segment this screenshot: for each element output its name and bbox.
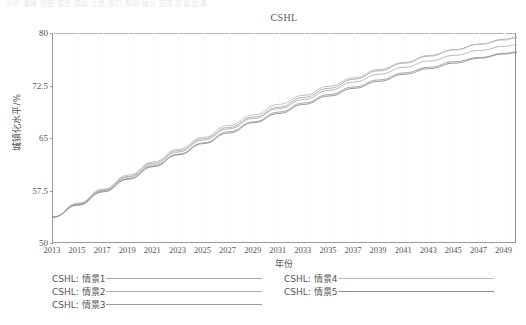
y-tick-label: 80 [39, 28, 48, 38]
x-tick-label: 2049 [495, 245, 512, 255]
x-tick-label: 2037 [344, 245, 361, 255]
x-tick-label: 2045 [445, 245, 462, 255]
series-line [53, 53, 517, 218]
x-tick-label: 2015 [69, 245, 86, 255]
legend-item[interactable]: CSHL: 情景3 [52, 298, 284, 311]
legend-item-label: CSHL: 情景2 [52, 285, 105, 298]
legend-item-label: CSHL: 情景1 [52, 272, 105, 285]
window-menu-strip: 文件 编辑 视图 模型 模拟 工具 窗口 帮助 输出 图表 变量 结果 [6, 0, 506, 9]
x-axis-title: 年份 [52, 257, 516, 270]
y-axis-title: 城镇化水平/% [10, 139, 23, 151]
x-tick-label: 2029 [244, 245, 261, 255]
series-lines [53, 33, 517, 243]
y-tick-mark [50, 243, 53, 244]
plot-area: 5057.56572.580 [52, 33, 516, 243]
x-tick-label: 2033 [294, 245, 311, 255]
chart-title: CSHL [52, 12, 516, 23]
x-tick-label: 2027 [219, 245, 236, 255]
x-tick-label: 2035 [319, 245, 336, 255]
x-tick-label: 2031 [269, 245, 286, 255]
x-tick-label: 2019 [119, 245, 136, 255]
legend-item-line-swatch [106, 304, 262, 305]
chart-legend: CSHL: 情景1CSHL: 情景2CSHL: 情景3 CSHL: 情景4CSH… [52, 272, 516, 318]
x-tick-label: 2021 [144, 245, 161, 255]
legend-item-label: CSHL: 情景3 [52, 298, 105, 311]
legend-item-label: CSHL: 情景5 [284, 285, 337, 298]
legend-item[interactable]: CSHL: 情景1 [52, 272, 284, 285]
x-tick-label: 2013 [44, 245, 61, 255]
x-tick-label: 2023 [169, 245, 186, 255]
x-tick-label: 2017 [94, 245, 111, 255]
legend-column-left: CSHL: 情景1CSHL: 情景2CSHL: 情景3 [52, 272, 284, 318]
y-tick-label: 72.5 [32, 81, 48, 91]
legend-item-label: CSHL: 情景4 [284, 272, 337, 285]
x-tick-label: 2043 [420, 245, 437, 255]
legend-item[interactable]: CSHL: 情景2 [52, 285, 284, 298]
legend-item-line-swatch [106, 291, 262, 292]
x-tick-label: 2047 [470, 245, 487, 255]
series-line [53, 38, 517, 217]
y-tick-label: 57.5 [32, 186, 48, 196]
x-tick-label: 2025 [194, 245, 211, 255]
x-tick-label: 2041 [395, 245, 412, 255]
legend-item[interactable]: CSHL: 情景5 [284, 285, 516, 298]
x-tick-label: 2039 [370, 245, 387, 255]
y-tick-label: 65 [39, 133, 48, 143]
legend-item-line-swatch [338, 278, 494, 279]
legend-column-right: CSHL: 情景4CSHL: 情景5 [284, 272, 516, 318]
legend-item[interactable]: CSHL: 情景4 [284, 272, 516, 285]
series-line [53, 52, 517, 217]
series-line [53, 45, 517, 217]
legend-item-line-swatch [106, 278, 262, 279]
legend-item-line-swatch [338, 291, 494, 292]
chart-screenshot: 文件 编辑 视图 模型 模拟 工具 窗口 帮助 输出 图表 变量 结果 CSHL… [0, 0, 526, 325]
